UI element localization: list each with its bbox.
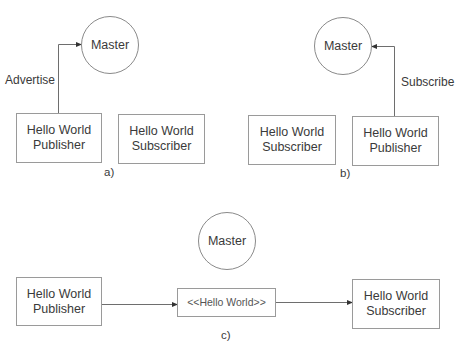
master-label: Master	[91, 38, 129, 52]
subscriber-node-a: Hello World Subscriber	[118, 114, 205, 164]
subscriber-node-c: Hello World Subscriber	[352, 279, 440, 329]
master-node-c: Master	[198, 212, 256, 270]
subscribe-label: Subscribe	[401, 75, 454, 89]
master-label: Master	[208, 234, 246, 248]
subscriber-label-line2: Subscriber	[262, 140, 322, 155]
panel-b-caption: b)	[340, 167, 350, 179]
subscriber-node-b: Hello World Subscriber	[248, 115, 336, 165]
publisher-label-line2: Publisher	[33, 302, 85, 317]
advertise-arrow	[59, 45, 82, 114]
publisher-label-line1: Hello World	[27, 287, 91, 302]
publisher-label-line1: Hello World	[363, 126, 427, 141]
master-node-b: Master	[314, 17, 372, 75]
subscriber-label-line1: Hello World	[129, 124, 193, 139]
subscriber-label-line2: Subscriber	[366, 304, 426, 319]
master-label: Master	[324, 39, 362, 53]
message-node: <<Hello World>>	[177, 288, 276, 317]
publisher-label-line2: Publisher	[369, 141, 421, 156]
panel-a-caption: a)	[104, 166, 114, 178]
subscriber-label-line1: Hello World	[260, 125, 324, 140]
publisher-node-b: Hello World Publisher	[352, 116, 439, 166]
message-label: <<Hello World>>	[187, 295, 266, 310]
publisher-label-line2: Publisher	[33, 138, 85, 153]
master-node-a: Master	[81, 16, 139, 74]
publisher-label-line1: Hello World	[27, 123, 91, 138]
subscribe-arrow	[372, 47, 395, 117]
subscriber-label-line1: Hello World	[364, 289, 428, 304]
advertise-label: Advertise	[5, 73, 55, 87]
subscriber-label-line2: Subscriber	[132, 139, 192, 154]
panel-c-caption: c)	[221, 329, 231, 341]
publisher-node-c: Hello World Publisher	[16, 277, 102, 326]
publisher-node-a: Hello World Publisher	[16, 113, 102, 163]
